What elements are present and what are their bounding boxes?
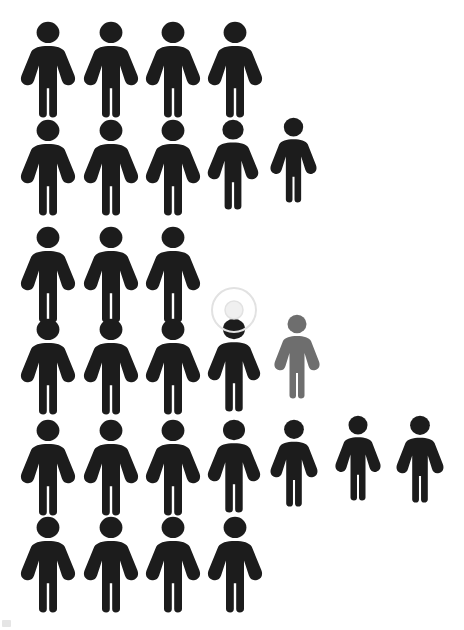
person-icon (205, 21, 265, 118)
person-icon (205, 419, 263, 513)
person-icon (205, 516, 265, 613)
person-icon (143, 318, 203, 415)
person-icon (18, 516, 78, 613)
person-icon (81, 21, 141, 118)
person-icon (143, 226, 203, 323)
person-icon (18, 226, 78, 323)
person-icon (272, 314, 322, 399)
person-icon (143, 419, 203, 516)
person-icon (18, 119, 78, 216)
person-icon (18, 318, 78, 415)
person-icon (205, 119, 261, 210)
person-icon (81, 516, 141, 613)
person-icon (81, 419, 141, 516)
pictogram-canvas (0, 0, 464, 630)
person-icon (18, 419, 78, 516)
person-icon (143, 516, 203, 613)
person-icon (81, 119, 141, 216)
person-icon (268, 117, 319, 203)
person-icon (205, 318, 263, 412)
person-icon (18, 21, 78, 118)
person-icon (333, 415, 383, 501)
person-icon (143, 21, 203, 118)
person-icon (143, 119, 203, 216)
person-icon (81, 318, 141, 415)
person-icon (81, 226, 141, 323)
person-icon (268, 419, 320, 507)
person-icon (394, 415, 446, 503)
corner-artifact (2, 620, 11, 627)
